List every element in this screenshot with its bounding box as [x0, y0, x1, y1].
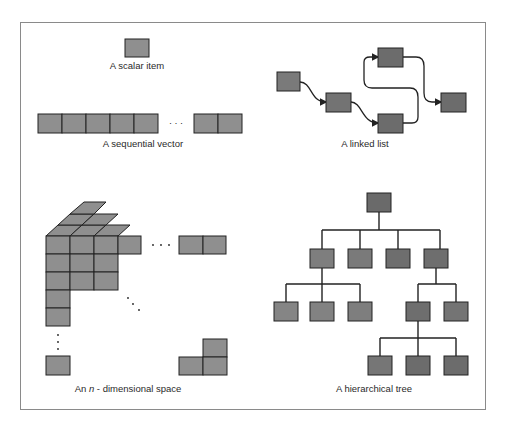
vector-cell [110, 114, 134, 133]
space-cell [203, 236, 226, 254]
n-space-label: An n - dimensional space [75, 383, 182, 394]
linked-list-label: A linked list [341, 138, 389, 149]
vector-cell [38, 114, 62, 133]
list-node [277, 72, 300, 91]
space-cell [70, 272, 94, 290]
tree-node [274, 302, 298, 321]
vector-cell [62, 114, 86, 133]
scalar-label: A scalar item [110, 60, 164, 71]
list-node [378, 114, 403, 133]
vector-label: A sequential vector [103, 138, 183, 149]
space-cell [46, 254, 70, 272]
tree-label: A hierarchical tree [336, 383, 412, 394]
space-cell [70, 254, 94, 272]
space-cell [46, 272, 70, 290]
tree-node [368, 356, 392, 375]
vector-cell [134, 114, 158, 133]
tree-node [406, 356, 430, 375]
tree-node [310, 302, 334, 321]
space-cell [70, 236, 94, 254]
vector-cell [218, 114, 242, 133]
tree-node [348, 249, 372, 268]
space-cell [179, 357, 203, 375]
tree-node [406, 302, 430, 321]
list-node [326, 93, 351, 112]
space-cell [46, 236, 70, 254]
space-cell [94, 236, 118, 254]
vector-cell [86, 114, 110, 133]
space-cell [94, 272, 118, 290]
list-node [441, 93, 466, 112]
tree-node [444, 302, 468, 321]
tree-node [348, 302, 372, 321]
data-structures-diagram: A scalar item · · · A sequential vector … [0, 0, 512, 430]
list-node [378, 48, 403, 67]
space-cell [179, 236, 203, 254]
tree-node [424, 249, 448, 268]
space-cell [203, 357, 227, 375]
space-cell [94, 254, 118, 272]
space-cell [118, 236, 141, 254]
space-cell [203, 339, 227, 357]
tree-root [367, 193, 391, 212]
tree-node [444, 356, 468, 375]
vector-cell [194, 114, 218, 133]
space-cell [46, 290, 70, 308]
vector-ellipsis: · · · [169, 118, 183, 128]
space-cell [46, 356, 70, 375]
scalar-box [125, 39, 149, 57]
tree-node [386, 249, 410, 268]
tree-node [310, 249, 334, 268]
space-cell [46, 308, 70, 326]
